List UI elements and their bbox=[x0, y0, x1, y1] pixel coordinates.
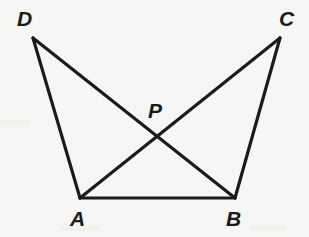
segment-CA bbox=[80, 38, 280, 198]
geometry-figure: D C P A B bbox=[0, 0, 309, 237]
vertex-label-A: A bbox=[70, 208, 85, 229]
segment-CB bbox=[235, 38, 280, 198]
vertex-label-B: B bbox=[226, 208, 241, 229]
segment-DA bbox=[33, 38, 80, 198]
vertex-label-P: P bbox=[148, 100, 162, 121]
vertex-label-D: D bbox=[17, 8, 32, 29]
segment-DB bbox=[33, 38, 235, 198]
vertex-label-C: C bbox=[279, 8, 294, 29]
